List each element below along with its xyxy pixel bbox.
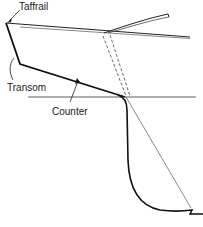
rudder-stock-dashed (103, 35, 130, 96)
hull-profile (118, 95, 203, 214)
tiller (104, 14, 169, 33)
sheer-line (6, 23, 190, 39)
counter-leader (70, 81, 78, 102)
transom-leader (10, 58, 14, 80)
label-counter: Counter (52, 106, 88, 117)
label-transom: Transom (7, 82, 46, 93)
label-taffrail: Taffrail (19, 1, 48, 12)
taffrail-arrowhead (7, 18, 12, 23)
stern-diagram: Taffrail Transom Counter (0, 0, 203, 227)
